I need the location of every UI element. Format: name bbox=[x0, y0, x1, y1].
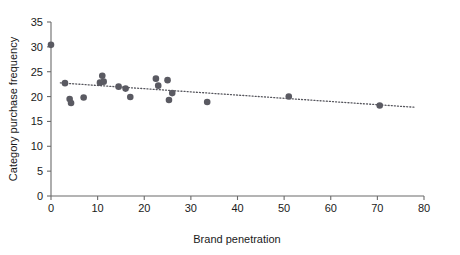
x-tick-label: 80 bbox=[418, 202, 430, 214]
data-point bbox=[99, 72, 106, 79]
trend-line bbox=[60, 83, 414, 107]
data-point bbox=[155, 82, 162, 89]
data-points-group bbox=[48, 42, 383, 109]
data-point bbox=[166, 97, 173, 104]
y-tick-label: 10 bbox=[31, 140, 43, 152]
y-tick-label: 30 bbox=[31, 41, 43, 53]
x-tick-label: 60 bbox=[325, 202, 337, 214]
x-tick-label: 30 bbox=[185, 202, 197, 214]
x-tick-label: 20 bbox=[138, 202, 150, 214]
data-point bbox=[62, 80, 69, 87]
data-point bbox=[80, 94, 87, 101]
scatter-chart-figure: 0102030405060708005101520253035 Brand pe… bbox=[0, 0, 460, 255]
plot-canvas: 0102030405060708005101520253035 Brand pe… bbox=[0, 0, 460, 255]
data-point bbox=[164, 77, 171, 84]
x-tick-label: 10 bbox=[92, 202, 104, 214]
data-point bbox=[376, 102, 383, 109]
y-tick-label: 35 bbox=[31, 16, 43, 28]
data-point bbox=[115, 83, 122, 90]
data-point bbox=[127, 94, 134, 101]
trend-line-group bbox=[60, 83, 414, 107]
axes-group bbox=[51, 22, 424, 196]
x-tick-label: 70 bbox=[371, 202, 383, 214]
data-point bbox=[122, 85, 129, 92]
data-point bbox=[169, 90, 176, 97]
data-point bbox=[68, 100, 75, 107]
y-tick-label: 25 bbox=[31, 66, 43, 78]
tick-labels-group: 0102030405060708005101520253035 bbox=[31, 16, 430, 214]
y-tick-label: 15 bbox=[31, 115, 43, 127]
y-tick-label: 5 bbox=[37, 165, 43, 177]
data-point bbox=[285, 93, 292, 100]
x-tick-label: 0 bbox=[48, 202, 54, 214]
data-point bbox=[153, 75, 160, 82]
y-tick-label: 20 bbox=[31, 91, 43, 103]
data-point bbox=[48, 42, 55, 49]
data-point bbox=[204, 99, 211, 106]
y-axis-title: Category purchase frequency bbox=[7, 36, 19, 181]
y-tick-label: 0 bbox=[37, 190, 43, 202]
x-tick-label: 40 bbox=[231, 202, 243, 214]
x-axis-title: Brand penetration bbox=[193, 233, 280, 245]
tick-marks-group bbox=[47, 22, 424, 200]
x-tick-label: 50 bbox=[278, 202, 290, 214]
data-point bbox=[100, 78, 107, 85]
